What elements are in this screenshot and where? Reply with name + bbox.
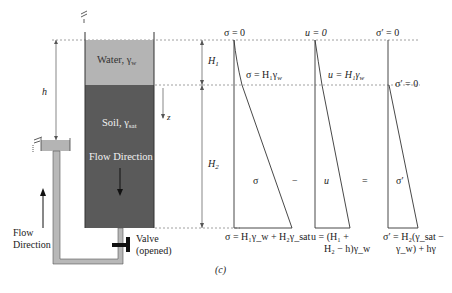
sigma-top-label: σ = 0 [224,27,245,38]
H2-label: H2 [208,158,219,173]
u-center-label: u [324,175,329,186]
inner-flow-label: Flow Direction [89,151,153,162]
soil-label: Soil, γsat [102,117,137,132]
valve-stem [112,243,118,247]
water-label: Water, γw [97,54,136,69]
valve-label-line2: (opened) [136,245,172,256]
sigma-eff-mid-label: σ′ = 0 [395,78,418,89]
H1-label: H1 [208,55,219,70]
sigma-eff-top-label: σ′ = 0 [376,27,399,38]
sigma-eff-bottom-label-line1: σ′ = H₂(γ_sat − [383,231,444,242]
u-top-label: u = 0 [305,27,327,38]
minus-sign: − [292,175,298,186]
diagram-canvas [0,0,452,293]
water-surface-symbol-icon [81,11,87,23]
u-mid-label: u = H₁γw [328,69,364,84]
valve-label-line1: Valve [136,233,159,244]
u-bottom-label-line1: u = (H₁ + [311,231,349,242]
outer-flow-label-line2: Direction [13,239,51,250]
sigma-center-label: σ [253,175,258,186]
effective-stress-diagram [388,40,418,228]
u-bottom-label-line2: H₂ − h)γ_w [324,243,370,254]
outer-flow-label-line1: Flow [13,227,34,238]
sigma-eff-bottom-label-line2: γ_w) + hγ [396,243,436,254]
sigma-eff-center-label: σ′ [396,175,404,186]
sigma-bottom-label: σ = H₁γ_w + H₂γ_sat [225,231,310,242]
equals-sign: = [362,175,368,186]
h-label: h [42,86,47,97]
figure-caption: (c) [215,264,226,275]
reservoir-water [41,140,70,151]
z-label: z [167,112,171,123]
sigma-mid-label: σ = H₁γw [246,69,282,84]
valve-handle-icon [126,237,130,252]
